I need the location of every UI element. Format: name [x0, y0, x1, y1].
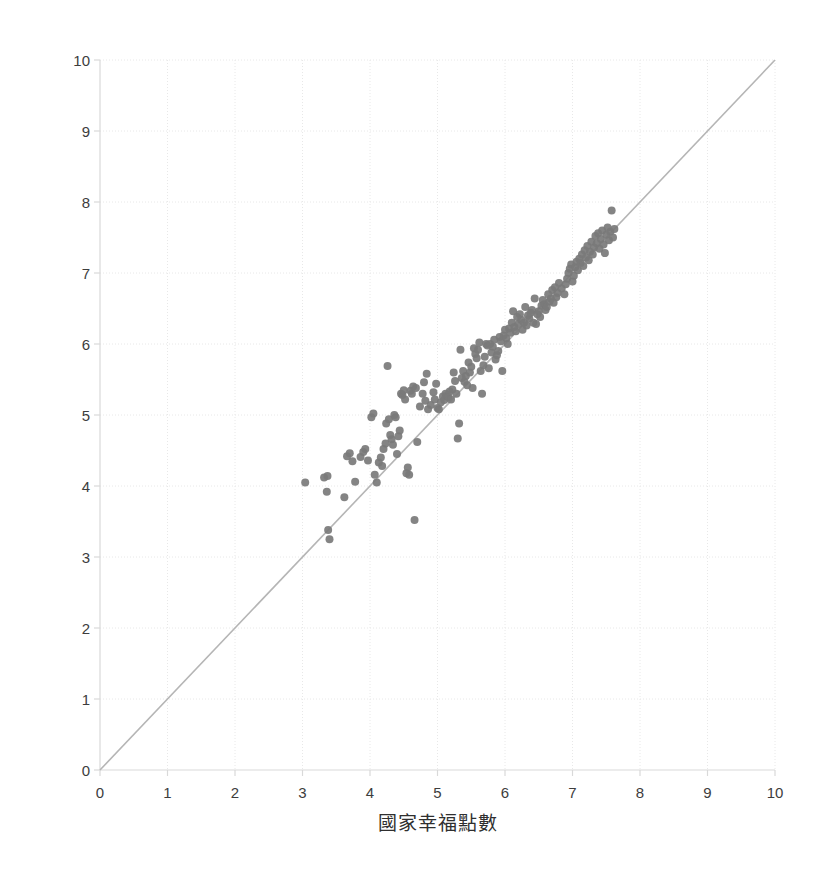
data-point [532, 320, 540, 328]
data-point [454, 434, 462, 442]
data-point [346, 449, 354, 457]
data-point [469, 384, 477, 392]
plot-canvas [100, 60, 775, 770]
x-tick-label: 8 [636, 784, 644, 801]
data-point [512, 327, 520, 335]
scatter-chart: 都市幸福點數 012345678910 012345678910 國家幸福點數 [0, 0, 823, 877]
data-point [412, 384, 420, 392]
x-axis-tick-labels: 012345678910 [0, 784, 823, 804]
x-tick-label: 0 [96, 784, 104, 801]
x-tick-label: 9 [703, 784, 711, 801]
plot-area [100, 60, 775, 770]
data-point [348, 457, 356, 465]
data-point [435, 405, 443, 413]
data-point [478, 390, 486, 398]
data-point [420, 378, 428, 386]
data-point [498, 367, 506, 375]
data-point [323, 472, 331, 480]
data-point [324, 526, 332, 534]
data-point [413, 438, 421, 446]
data-point [475, 339, 483, 347]
data-point [536, 313, 544, 321]
data-point [423, 370, 431, 378]
y-tick-label: 1 [56, 691, 90, 708]
y-tick-label: 4 [56, 478, 90, 495]
data-point [404, 464, 412, 472]
y-tick-label: 2 [56, 620, 90, 637]
data-point [608, 207, 616, 215]
data-point [609, 234, 617, 242]
data-point [301, 478, 309, 486]
data-point [452, 390, 460, 398]
data-point [411, 516, 419, 524]
data-point [393, 450, 401, 458]
x-tick-label: 3 [298, 784, 306, 801]
data-point [419, 390, 427, 398]
x-axis-title-text: 國家幸福點數 [378, 813, 498, 834]
data-point [373, 478, 381, 486]
y-tick-label: 7 [56, 265, 90, 282]
data-point [432, 380, 440, 388]
data-point [504, 340, 512, 348]
y-tick-label: 6 [56, 336, 90, 353]
data-point [400, 386, 408, 394]
data-point [361, 445, 369, 453]
y-tick-label: 8 [56, 194, 90, 211]
y-tick-label: 0 [56, 762, 90, 779]
data-point [455, 420, 463, 428]
x-axis-title: 國家幸福點數 [100, 808, 776, 835]
data-point [392, 413, 400, 421]
x-tick-label: 1 [163, 784, 171, 801]
data-point [377, 454, 385, 462]
data-point [405, 471, 413, 479]
data-point [494, 347, 502, 355]
data-point [485, 364, 493, 372]
data-point [340, 493, 348, 501]
data-point [323, 488, 331, 496]
data-point [364, 456, 372, 464]
x-tick-label: 2 [231, 784, 239, 801]
x-tick-label: 5 [433, 784, 441, 801]
series-0 [301, 207, 618, 544]
y-tick-label: 5 [56, 407, 90, 424]
data-point [589, 251, 597, 259]
data-point [560, 290, 568, 298]
x-tick-label: 6 [501, 784, 509, 801]
data-point [326, 535, 334, 543]
data-point [396, 427, 404, 435]
data-point [450, 368, 458, 376]
x-tick-label: 7 [568, 784, 576, 801]
data-point [467, 363, 475, 371]
data-point [384, 362, 392, 370]
x-tick-label: 10 [767, 784, 784, 801]
data-point [456, 346, 464, 354]
data-point [481, 353, 489, 361]
y-tick-label: 3 [56, 549, 90, 566]
data-point [378, 462, 386, 470]
data-point [401, 395, 409, 403]
x-tick-label: 4 [366, 784, 374, 801]
y-tick-label: 9 [56, 123, 90, 140]
data-point [351, 478, 359, 486]
data-point [474, 346, 482, 354]
data-point [369, 410, 377, 418]
y-tick-label: 10 [56, 52, 90, 69]
data-point [473, 354, 481, 362]
data-point [371, 471, 379, 479]
data-point [531, 295, 539, 303]
data-point [601, 249, 609, 257]
data-point [389, 441, 397, 449]
data-point [429, 388, 437, 396]
data-point [610, 225, 618, 233]
y-axis-title: 都市幸福點數 [0, 0, 40, 877]
